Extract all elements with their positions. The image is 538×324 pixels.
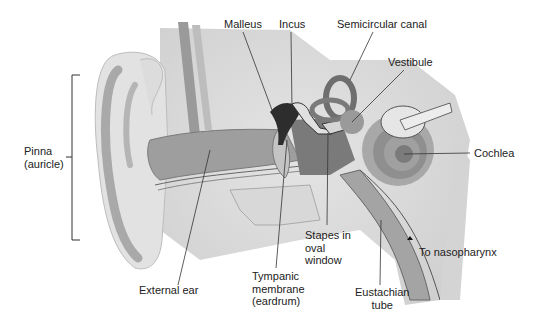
label-eustachian-line2: tube <box>355 299 409 312</box>
pinna-bracket <box>66 75 80 240</box>
label-incus: Incus <box>279 18 305 31</box>
label-eustachian-line1: Eustachian <box>355 286 409 299</box>
label-pinna-line2: (auricle) <box>24 158 64 171</box>
label-stapes: Stapes in oval window <box>305 229 351 267</box>
label-stapes-line3: window <box>305 254 351 267</box>
label-pinna-line1: Pinna <box>24 145 64 158</box>
label-external-ear: External ear <box>139 284 198 297</box>
label-to-nasopharynx: To nasopharynx <box>419 246 497 259</box>
label-cochlea: Cochlea <box>474 147 514 160</box>
label-vestibule: Vestibule <box>388 56 433 69</box>
label-semicircular-canal: Semicircular canal <box>337 18 427 31</box>
label-tympanic-membrane: Tympanic membrane (eardrum) <box>252 270 305 308</box>
label-eustachian-tube: Eustachian tube <box>355 286 409 311</box>
label-malleus: Malleus <box>224 18 262 31</box>
label-stapes-line2: oval <box>305 242 351 255</box>
label-tympanic-line1: Tympanic <box>252 270 305 283</box>
label-tympanic-line2: membrane <box>252 283 305 296</box>
label-tympanic-line3: (eardrum) <box>252 295 305 308</box>
label-pinna: Pinna (auricle) <box>24 145 64 170</box>
label-stapes-line1: Stapes in <box>305 229 351 242</box>
